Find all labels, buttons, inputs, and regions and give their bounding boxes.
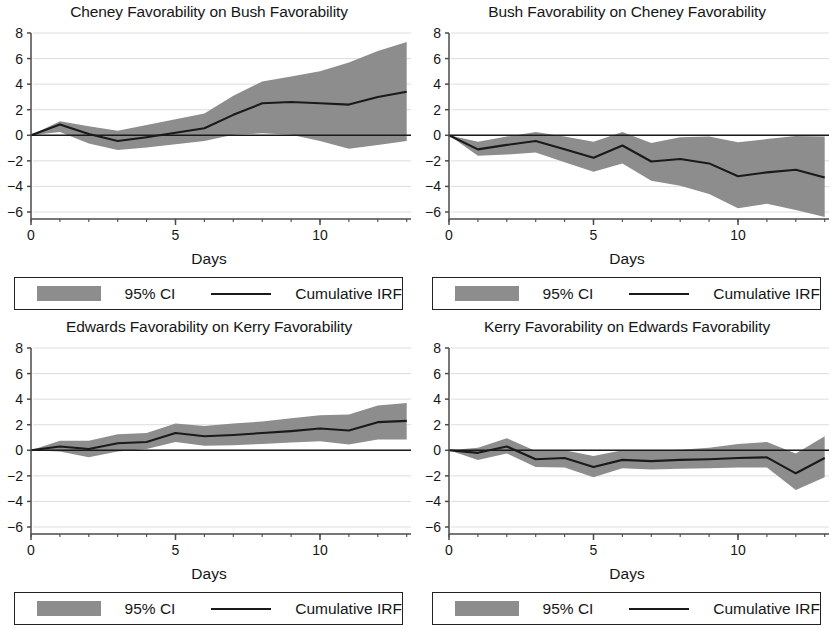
legend-ci-swatch [455,286,519,301]
plot-area: 86420−2−4−60510 [418,0,836,250]
y-tick-label: 6 [433,51,441,67]
x-tick-label: 5 [172,542,180,558]
legend-ci-label: 95% CI [543,285,594,303]
chart-panel-cheney-on-bush: Cheney Favorability on Bush Favorability… [0,0,418,315]
legend-irf-label: Cumulative IRF [295,285,402,303]
legend-irf-label: Cumulative IRF [713,285,820,303]
y-tick-label: 2 [433,417,441,433]
y-tick-label: −4 [7,178,23,194]
y-tick-label: −2 [7,468,23,484]
chart-legend: 95% CICumulative IRF [432,277,821,310]
y-tick-label: 8 [433,25,441,41]
y-tick-label: 4 [433,391,441,407]
y-tick-label: 0 [433,442,441,458]
y-tick-label: −6 [7,519,23,535]
y-tick-label: 4 [433,76,441,92]
x-tick-label: 0 [445,227,453,243]
y-tick-label: 6 [15,51,23,67]
x-axis-title: Days [0,565,418,583]
chart-panel-kerry-on-edwards: Kerry Favorability on Edwards Favorabili… [418,315,836,630]
y-tick-label: −6 [7,204,23,220]
chart-legend: 95% CICumulative IRF [14,592,403,625]
plot-area: 86420−2−4−60510 [0,0,418,250]
plot-area: 86420−2−4−60510 [418,315,836,565]
y-tick-label: 4 [15,391,23,407]
x-tick-label: 0 [27,542,35,558]
y-tick-label: −2 [425,468,441,484]
x-tick-label: 5 [172,227,180,243]
x-tick-label: 10 [312,227,328,243]
plot-area: 86420−2−4−60510 [0,315,418,565]
legend-ci-label: 95% CI [125,600,176,618]
y-tick-label: −6 [425,519,441,535]
legend-ci-swatch [455,601,519,616]
y-tick-label: 2 [15,417,23,433]
legend-ci-swatch [37,601,101,616]
legend-ci-label: 95% CI [543,600,594,618]
irf-figure: Cheney Favorability on Bush Favorability… [0,0,836,630]
legend-irf-line [211,608,271,610]
y-tick-label: 2 [433,102,441,118]
chart-legend: 95% CICumulative IRF [432,592,821,625]
legend-irf-label: Cumulative IRF [713,600,820,618]
chart-legend: 95% CICumulative IRF [14,277,403,310]
y-tick-label: 8 [15,25,23,41]
y-tick-label: 0 [433,127,441,143]
x-axis-title: Days [0,250,418,268]
x-tick-label: 10 [730,542,746,558]
y-tick-label: −4 [425,493,441,509]
y-tick-label: −2 [425,153,441,169]
y-tick-label: 0 [15,442,23,458]
legend-irf-line [629,608,689,610]
legend-irf-label: Cumulative IRF [295,600,402,618]
x-tick-label: 10 [730,227,746,243]
x-tick-label: 5 [590,227,598,243]
y-tick-label: 8 [433,340,441,356]
y-tick-label: 4 [15,76,23,92]
x-tick-label: 10 [312,542,328,558]
x-tick-label: 5 [590,542,598,558]
chart-panel-bush-on-cheney: Bush Favorability on Cheney Favorability… [418,0,836,315]
x-tick-label: 0 [27,227,35,243]
y-tick-label: −2 [7,153,23,169]
legend-ci-swatch [37,286,101,301]
y-tick-label: −6 [425,204,441,220]
legend-irf-line [629,293,689,295]
y-tick-label: 0 [15,127,23,143]
y-tick-label: −4 [7,493,23,509]
chart-panel-edwards-on-kerry: Edwards Favorability on Kerry Favorabili… [0,315,418,630]
y-tick-label: 6 [433,366,441,382]
x-axis-title: Days [418,565,836,583]
x-tick-label: 0 [445,542,453,558]
legend-irf-line [211,293,271,295]
legend-ci-label: 95% CI [125,285,176,303]
confidence-interval-band [449,436,825,490]
y-tick-label: −4 [425,178,441,194]
x-axis-title: Days [418,250,836,268]
y-tick-label: 8 [15,340,23,356]
y-tick-label: 2 [15,102,23,118]
y-tick-label: 6 [15,366,23,382]
